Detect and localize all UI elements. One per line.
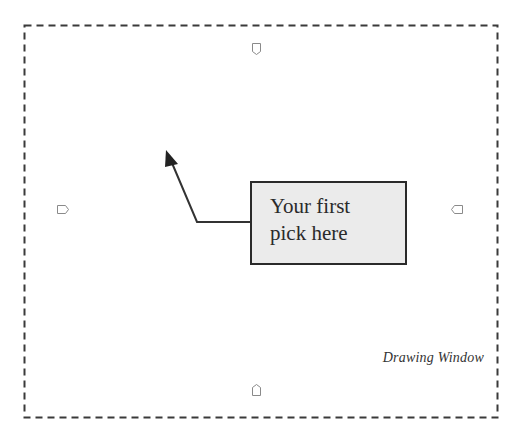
drawing-window-caption: Drawing Window (383, 350, 484, 366)
callout-line-1: Your first (270, 193, 350, 220)
arrowhead-icon (165, 150, 178, 167)
left-marker-icon (58, 206, 69, 214)
bottom-marker-icon (253, 385, 261, 396)
top-marker-icon (253, 44, 261, 55)
callout-line-2: pick here (270, 220, 350, 247)
callout-text: Your first pick here (270, 193, 350, 247)
callout-leader-line (172, 163, 250, 222)
right-marker-icon (452, 206, 463, 214)
callout-box: Your first pick here (250, 181, 407, 265)
